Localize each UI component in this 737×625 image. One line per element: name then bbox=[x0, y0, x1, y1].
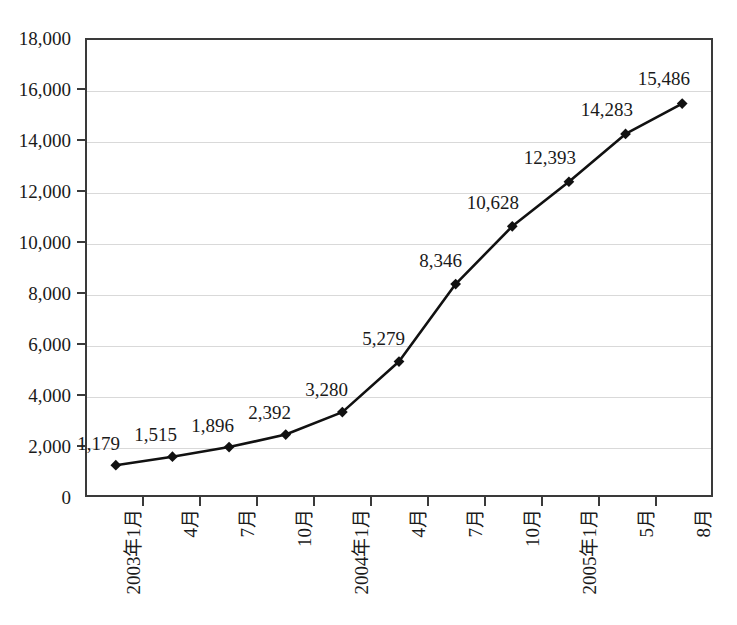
y-axis-tick-mark bbox=[77, 445, 85, 447]
series-line-path bbox=[116, 104, 682, 466]
x-axis-tick-label: 10月 bbox=[285, 509, 304, 547]
x-axis-tick-label: 4月 bbox=[399, 509, 418, 538]
series-line bbox=[87, 40, 711, 495]
y-axis-tick-label: 16,000 bbox=[19, 80, 71, 99]
x-axis-tick-mark bbox=[199, 497, 201, 506]
y-axis-tick-mark bbox=[77, 241, 85, 243]
x-axis-tick-label-text: 2004年1月 bbox=[352, 509, 371, 595]
x-axis-tick-label-text: 4月 bbox=[409, 509, 428, 538]
x-axis-ticks bbox=[85, 497, 713, 507]
x-axis-tick-label: 2005年1月 bbox=[570, 509, 589, 595]
y-axis-tick-mark bbox=[77, 88, 85, 90]
x-axis-tick-label: 4月 bbox=[171, 509, 190, 538]
y-axis-tick-label: 0 bbox=[62, 488, 72, 507]
x-axis-tick-mark bbox=[484, 497, 486, 506]
data-point-marker bbox=[677, 98, 688, 109]
y-axis-tick-mark bbox=[77, 343, 85, 345]
x-axis-tick-mark bbox=[598, 497, 600, 506]
x-axis-tick-label: 7月 bbox=[228, 509, 247, 538]
y-axis-tick-mark bbox=[77, 190, 85, 192]
x-axis-tick-label-text: 10月 bbox=[523, 509, 542, 547]
x-axis-tick-mark bbox=[541, 497, 543, 506]
x-axis-tick-label-text: 5月 bbox=[637, 509, 656, 538]
x-axis: 2003年1月4月7月10月2004年1月4月7月10月2005年1月5月8月 bbox=[85, 509, 713, 625]
data-point-marker bbox=[167, 451, 178, 462]
y-axis-tick-label: 14,000 bbox=[19, 131, 71, 150]
y-axis-tick-label: 12,000 bbox=[19, 182, 71, 201]
x-axis-tick-mark bbox=[313, 497, 315, 506]
y-axis-tick-mark bbox=[77, 292, 85, 294]
x-axis-tick-label-text: 2003年1月 bbox=[124, 509, 143, 595]
x-axis-tick-mark bbox=[427, 497, 429, 506]
plot-area bbox=[85, 38, 713, 497]
x-axis-tick-label: 8月 bbox=[684, 509, 703, 538]
y-axis-tick-mark bbox=[77, 394, 85, 396]
x-axis-tick-label-text: 10月 bbox=[295, 509, 314, 547]
y-axis-tick-label: 10,000 bbox=[19, 233, 71, 252]
y-axis-tick-label: 8,000 bbox=[28, 284, 71, 303]
x-axis-tick-label-text: 7月 bbox=[466, 509, 485, 538]
y-axis-tick-label: 18,000 bbox=[19, 29, 71, 48]
x-axis-tick-label: 7月 bbox=[456, 509, 475, 538]
x-axis-tick-mark bbox=[655, 497, 657, 506]
x-axis-tick-label-text: 8月 bbox=[694, 509, 713, 538]
y-axis-tick-mark bbox=[77, 139, 85, 141]
x-axis-tick-label: 10月 bbox=[513, 509, 532, 547]
y-axis-tick-label: 2,000 bbox=[28, 437, 71, 456]
y-axis-tick-label: 4,000 bbox=[28, 386, 71, 405]
x-axis-tick-label: 2003年1月 bbox=[114, 509, 133, 595]
x-axis-tick-mark bbox=[142, 497, 144, 506]
y-axis: 18,00016,00014,00012,00010,0008,0006,000… bbox=[0, 0, 85, 625]
x-axis-tick-label: 5月 bbox=[627, 509, 646, 538]
data-point-marker bbox=[110, 460, 121, 471]
x-axis-tick-label-text: 2005年1月 bbox=[580, 509, 599, 595]
x-axis-tick-mark bbox=[370, 497, 372, 506]
data-point-marker bbox=[224, 442, 235, 453]
x-axis-tick-label-text: 4月 bbox=[181, 509, 200, 538]
x-axis-tick-mark bbox=[256, 497, 258, 506]
data-point-marker bbox=[280, 429, 291, 440]
x-axis-tick-label: 2004年1月 bbox=[342, 509, 361, 595]
x-axis-tick-label-text: 7月 bbox=[238, 509, 257, 538]
y-axis-tick-label: 6,000 bbox=[28, 335, 71, 354]
line-chart: 18,00016,00014,00012,00010,0008,0006,000… bbox=[0, 0, 737, 625]
